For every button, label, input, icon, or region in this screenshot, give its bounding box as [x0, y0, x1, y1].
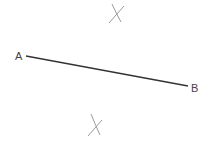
- point-b-label: B: [191, 82, 198, 94]
- lower-arc-cross-icon: [88, 114, 102, 136]
- point-a-label: A: [15, 50, 23, 62]
- segment-ab: [26, 56, 188, 86]
- construction-diagram: A B: [0, 0, 212, 148]
- upper-arc-cross-icon: [109, 4, 124, 23]
